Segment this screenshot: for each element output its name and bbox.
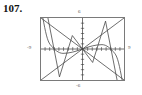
window-label-xmax: 9 — [128, 45, 131, 50]
problem-number: 107. — [3, 3, 22, 14]
window-label-ymax: 6 — [78, 9, 81, 14]
calculator-screen — [40, 17, 125, 81]
figure-root: 107. — [0, 0, 142, 95]
window-label-ymin: -6 — [76, 83, 80, 88]
graph-canvas — [41, 18, 124, 80]
window-label-xmin: -9 — [27, 45, 31, 50]
